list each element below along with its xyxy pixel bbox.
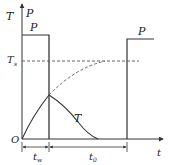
x-axis-label: t [157, 147, 162, 158]
rest-time-sub: 0 [93, 156, 97, 163]
pulse-2-label: P [137, 25, 146, 38]
y-axis-label-t: T [6, 10, 15, 23]
power-pulse-1 [22, 35, 49, 139]
steady-temp-sub: s [14, 60, 17, 67]
y-axis-label-p: P [25, 7, 34, 20]
heating-continuation-curve [49, 61, 105, 95]
heating-curve [22, 95, 49, 139]
work-time-sub: w [37, 156, 43, 163]
origin-label: O [11, 134, 19, 145]
power-pulse-2 [127, 39, 154, 139]
duty-cycle-diagram: T P t O P P T s T t w t 0 [0, 0, 169, 165]
temp-curve-label: T [74, 112, 83, 125]
pulse-1-label: P [29, 21, 38, 34]
